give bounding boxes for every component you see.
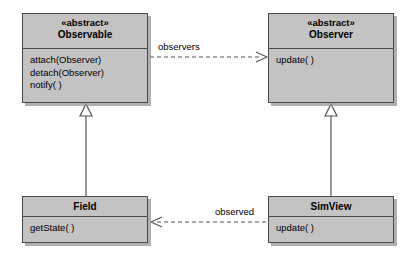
edge-label-observed: observed	[215, 206, 254, 217]
class-name-observable: Observable	[23, 29, 147, 41]
class-box-observer[interactable]: «abstract» Observer update( )	[268, 13, 394, 103]
generalization-field-observable	[80, 104, 92, 196]
uml-class-diagram: «abstract» Observable attach(Observer) d…	[0, 0, 419, 263]
class-operations-observable: attach(Observer) detach(Observer) notify…	[23, 49, 147, 92]
edge-label-observers: observers	[158, 41, 200, 52]
dependency-observable-observer	[150, 52, 267, 62]
class-header-observable: «abstract» Observable	[23, 14, 147, 49]
class-header-field: Field	[23, 197, 147, 217]
class-header-simview: SimView	[269, 197, 393, 217]
operation-item: attach(Observer)	[30, 54, 147, 67]
class-box-field[interactable]: Field getState( )	[22, 196, 148, 243]
class-header-observer: «abstract» Observer	[269, 14, 393, 49]
class-name-observer: Observer	[269, 29, 393, 41]
generalization-simview-observer	[325, 104, 337, 196]
dependency-simview-field	[151, 217, 266, 227]
operation-item: update( )	[276, 54, 393, 67]
class-name-simview: SimView	[269, 201, 393, 213]
operation-item: detach(Observer)	[30, 67, 147, 80]
class-operations-simview: update( )	[269, 217, 393, 235]
operation-item: notify( )	[30, 79, 147, 92]
class-stereotype-observer: «abstract»	[269, 17, 393, 29]
operation-item: getState( )	[30, 222, 147, 235]
class-box-simview[interactable]: SimView update( )	[268, 196, 394, 243]
class-box-observable[interactable]: «abstract» Observable attach(Observer) d…	[22, 13, 148, 103]
class-name-field: Field	[23, 201, 147, 213]
class-operations-field: getState( )	[23, 217, 147, 235]
operation-item: update( )	[276, 222, 393, 235]
class-stereotype-observable: «abstract»	[23, 17, 147, 29]
class-operations-observer: update( )	[269, 49, 393, 67]
